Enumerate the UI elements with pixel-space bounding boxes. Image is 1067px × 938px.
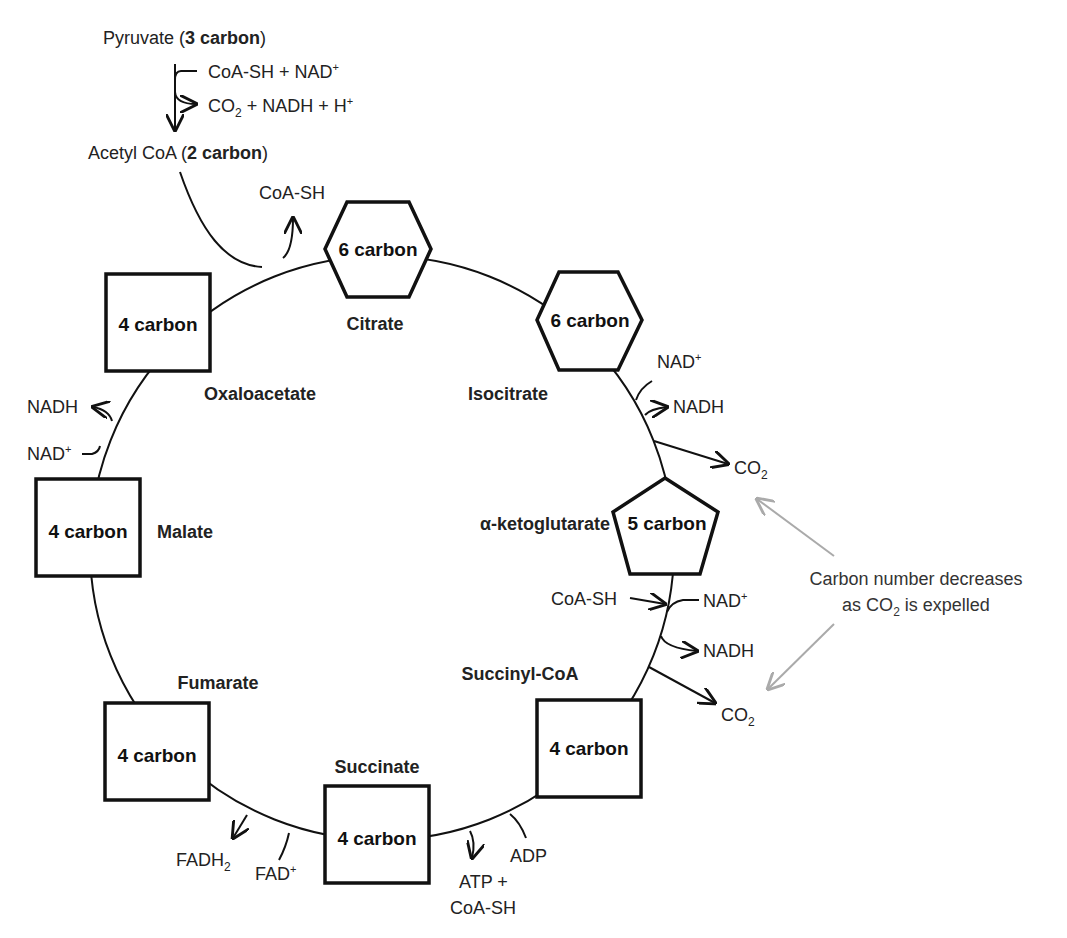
oxaloacetate-label: Oxaloacetate: [204, 384, 316, 404]
isocitrate-nad-label: NAD+: [657, 351, 701, 372]
alpha-ketoglutarate-label: α-ketoglutarate: [480, 514, 610, 534]
coa-sh-label: CoA-SH: [450, 898, 516, 918]
citric-acid-cycle-diagram: Pyruvate (3 carbon) CoA-SH + NAD+ CO2 + …: [0, 0, 1067, 938]
annotation-line2: as CO2 is expelled: [842, 595, 990, 619]
akg-co2-arrow: [649, 667, 715, 703]
akg-nad-in: [667, 600, 699, 612]
coa-release-arrow: [283, 218, 293, 258]
akg-nadh-label: NADH: [703, 641, 754, 661]
fumarate-node: 4 carbon: [105, 703, 209, 800]
malate-nad-in: [82, 446, 100, 454]
fadh2-out: [233, 815, 247, 838]
malate-nadh-out: [93, 407, 112, 421]
isocitrate-co2-label: CO2: [734, 458, 768, 482]
malate-label: Malate: [157, 522, 213, 542]
succinate-label: Succinate: [334, 757, 419, 777]
pdh-input-arrow: [175, 71, 197, 80]
isocitrate-nad-in: [636, 381, 652, 400]
citrate-node: 6 carbon: [325, 202, 431, 297]
annotation-line1: Carbon number decreases: [809, 569, 1022, 589]
pdh-inputs-label: CoA-SH + NAD+: [208, 61, 339, 82]
fadh2-label: FADH2: [176, 850, 231, 874]
akg-coa-label: CoA-SH: [551, 589, 617, 609]
citrate-label: Citrate: [346, 314, 403, 334]
succinyl-coa-label: Succinyl-CoA: [461, 664, 578, 684]
succinyl-coa-node: 4 carbon: [537, 700, 641, 797]
malate-nadh-label: NADH: [27, 397, 78, 417]
alpha-ketoglutarate-node: 5 carbon: [613, 478, 718, 574]
pdh-output-arrow: [175, 92, 196, 104]
fad-label: FAD+: [255, 863, 296, 884]
akg-coa-in-arrow: [630, 598, 665, 604]
carbon-count: 4 carbon: [337, 828, 416, 849]
pdh-outputs-label: CO2 + NADH + H+: [208, 95, 353, 120]
isocitrate-label: Isocitrate: [468, 384, 548, 404]
akg-co2-label: CO2: [721, 705, 755, 729]
succinyl-atp-out: [470, 831, 474, 858]
annotation-arrow-down: [768, 624, 834, 689]
isocitrate-node: 6 carbon: [537, 272, 642, 370]
fumarate-label: Fumarate: [177, 673, 258, 693]
isocitrate-nadh-out: [645, 407, 667, 415]
succinyl-adp-in: [510, 814, 526, 838]
carbon-count: 4 carbon: [117, 745, 196, 766]
akg-nad-label: NAD+: [703, 590, 747, 611]
coa-release-label: CoA-SH: [259, 183, 325, 203]
oxaloacetate-node: 4 carbon: [106, 274, 210, 371]
adp-label: ADP: [510, 846, 547, 866]
isocitrate-nadh-label: NADH: [673, 397, 724, 417]
malate-nad-label: NAD+: [27, 443, 71, 464]
carbon-count: 6 carbon: [338, 239, 417, 260]
carbon-count: 5 carbon: [627, 513, 706, 534]
carbon-count: 4 carbon: [48, 521, 127, 542]
malate-node: 4 carbon: [36, 479, 140, 576]
fad-in: [279, 833, 289, 860]
annotation-arrow-up: [757, 499, 834, 556]
atp-label: ATP +: [459, 872, 508, 892]
succinate-node: 4 carbon: [325, 786, 429, 883]
acetyl-coa-entry-curve: [180, 172, 262, 267]
acetyl-coa-label: Acetyl CoA (2 carbon): [88, 143, 268, 163]
carbon-count: 4 carbon: [118, 314, 197, 335]
carbon-count: 4 carbon: [549, 738, 628, 759]
isocitrate-co2-arrow: [654, 441, 728, 464]
akg-nadh-out: [661, 636, 697, 651]
carbon-count: 6 carbon: [550, 310, 629, 331]
pyruvate-label: Pyruvate (3 carbon): [103, 28, 266, 48]
